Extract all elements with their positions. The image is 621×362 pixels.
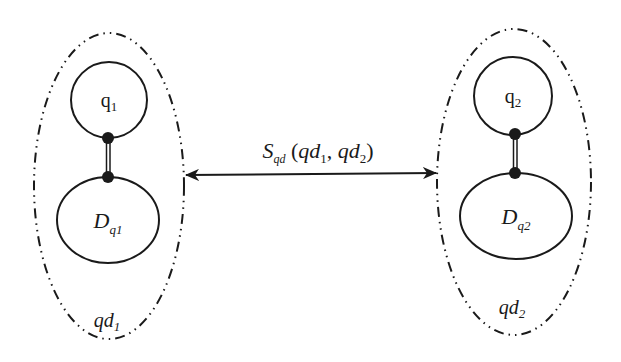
query-label-q1: q1 bbox=[101, 89, 118, 114]
query-label-q2: q2 bbox=[505, 85, 522, 110]
junction-dot-dq1 bbox=[102, 171, 114, 183]
group-label-qd2: qd2 bbox=[499, 296, 526, 321]
similarity-label: Sqd (qd1, qd2) bbox=[262, 138, 373, 166]
bidirectional-arrow bbox=[186, 173, 436, 175]
document-label-dq2: Dq2 bbox=[501, 204, 531, 233]
group-boundary-qd2 bbox=[437, 29, 591, 335]
group-qd1: q1 Dq1 qd1 bbox=[34, 33, 184, 339]
junction-dot-dq2 bbox=[509, 167, 521, 179]
similarity-diagram: q1 Dq1 qd1 q2 Dq2 qd2 Sqd (qd1, qd2) bbox=[0, 0, 621, 362]
group-boundary-qd1 bbox=[34, 33, 184, 339]
similarity-relation: Sqd (qd1, qd2) bbox=[186, 138, 436, 175]
document-label-dq1: Dq1 bbox=[93, 208, 123, 237]
group-label-qd1: qd1 bbox=[94, 309, 121, 334]
junction-dot-q1 bbox=[102, 132, 114, 144]
junction-dot-q2 bbox=[509, 128, 521, 140]
group-qd2: q2 Dq2 qd2 bbox=[437, 29, 591, 335]
